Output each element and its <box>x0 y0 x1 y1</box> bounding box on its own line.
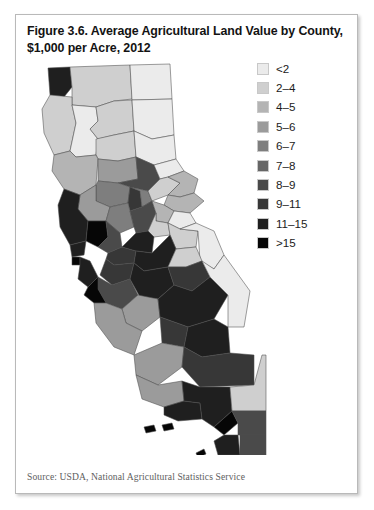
map-svg <box>18 55 268 455</box>
legend-label-11-15: 11–15 <box>276 218 307 230</box>
legend-item: 5–6 <box>257 117 353 136</box>
island-santa-cruz <box>144 425 156 433</box>
legend-label-8-9: 8–9 <box>276 179 295 191</box>
legend-item: <2 <box>257 59 353 78</box>
county-imperial <box>240 435 266 455</box>
figure-container: Figure 3.6. Average Agricultural Land Va… <box>15 14 358 494</box>
legend-swatch-7-8 <box>257 160 269 172</box>
legend-swatch-gt15 <box>257 237 269 249</box>
legend-swatch-6-7 <box>257 140 269 152</box>
island-santa-catalina <box>196 449 206 455</box>
legend-swatch-4-5 <box>257 101 269 113</box>
island-santa-rosa <box>162 423 174 431</box>
legend-label-7-8: 7–8 <box>276 160 295 172</box>
legend-item: 6–7 <box>257 137 353 156</box>
legend-swatch-5-6 <box>257 121 269 133</box>
county-glenn <box>98 157 138 183</box>
map-legend: <2 2–4 4–5 5–6 6–7 7–8 8–9 9–11 <box>257 59 353 253</box>
legend-item: 2–4 <box>257 78 353 97</box>
legend-swatch-8-9 <box>257 179 269 191</box>
legend-item: 4–5 <box>257 98 353 117</box>
california-choropleth-map <box>18 55 268 455</box>
county-san-francisco <box>72 257 80 265</box>
legend-label-2-4: 2–4 <box>276 82 295 94</box>
legend-item: >15 <box>257 234 353 253</box>
legend-item: 9–11 <box>257 195 353 214</box>
county-del-norte <box>48 67 72 97</box>
legend-label-5-6: 5–6 <box>276 121 295 133</box>
legend-swatch-lt2 <box>257 63 269 75</box>
figure-title: Figure 3.6. Average Agricultural Land Va… <box>27 23 349 57</box>
legend-swatch-11-15 <box>257 218 269 230</box>
legend-swatch-9-11 <box>257 198 269 210</box>
source-note: Source: USDA, National Agricultural Stat… <box>27 471 245 482</box>
legend-swatch-2-4 <box>257 82 269 94</box>
legend-label-gt15: >15 <box>276 237 296 249</box>
county-san-diego <box>214 435 240 455</box>
legend-item: 7–8 <box>257 156 353 175</box>
legend-label-lt2: <2 <box>276 63 289 75</box>
legend-label-4-5: 4–5 <box>276 101 295 113</box>
legend-label-9-11: 9–11 <box>276 198 301 210</box>
legend-label-6-7: 6–7 <box>276 140 295 152</box>
legend-item: 11–15 <box>257 214 353 233</box>
legend-item: 8–9 <box>257 175 353 194</box>
county-modoc <box>130 64 172 100</box>
